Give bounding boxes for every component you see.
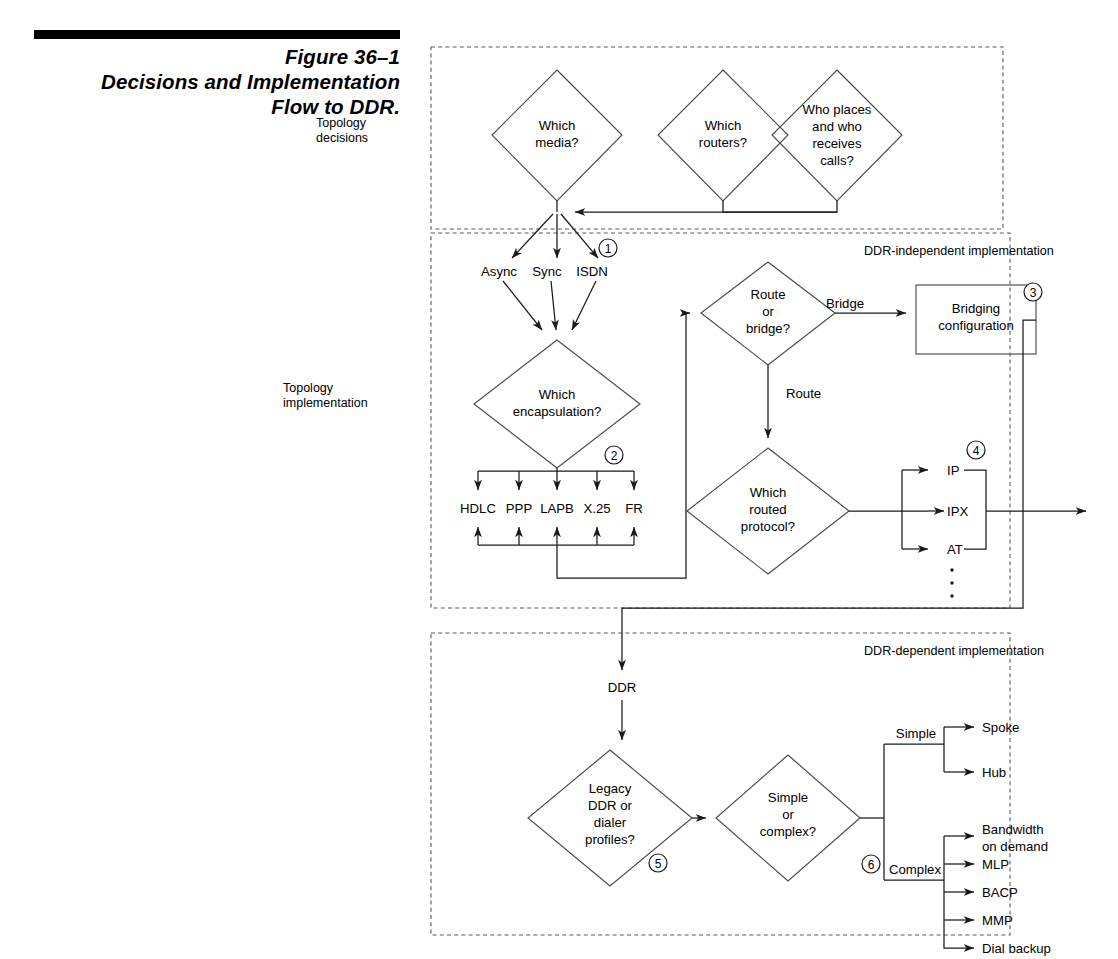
which-encapsulation-line2: encapsulation? — [513, 404, 602, 419]
arrow-async-to-encap — [503, 281, 542, 330]
complex-output-labels: Bandwidth on demand MLP BACP MMP Dial ba… — [982, 822, 1051, 956]
simple-output-labels: Spoke Hub — [982, 720, 1019, 780]
who-places-line2: and who — [812, 119, 862, 134]
output-label-bandwidth-line2: on demand — [982, 839, 1048, 854]
protocol-label-at: AT — [947, 542, 963, 557]
output-label-mlp: MLP — [982, 857, 1009, 872]
route-or-bridge-line1: Route — [750, 287, 785, 302]
decision-diamond-shapes — [474, 70, 1036, 886]
who-places-line1: Who places — [803, 102, 872, 117]
arrow-to-async — [512, 214, 553, 258]
who-places-line3: receives — [812, 136, 862, 151]
bridging-config-line1: Bridging — [952, 301, 1000, 316]
which-routed-protocol-line2: routed — [749, 502, 786, 517]
which-routed-protocol-line1: Which — [750, 485, 787, 500]
step-marker-5: 5 — [649, 854, 667, 872]
edge-label-bridge: Bridge — [826, 296, 864, 311]
output-label-mmp: MMP — [982, 913, 1013, 928]
legacy-ddr-line4: profiles? — [585, 832, 635, 847]
edge-label-ddr: DDR — [608, 680, 637, 695]
which-media-line1: Which — [539, 118, 576, 133]
step-marker-5-text: 5 — [655, 857, 662, 871]
label-ddr-independent: DDR-independent implementation — [864, 244, 1054, 258]
legacy-ddr-line1: Legacy — [589, 781, 632, 796]
output-label-dial-backup: Dial backup — [982, 941, 1051, 956]
media-label-isdn: ISDN — [576, 264, 608, 279]
encap-to-route-bridge-path — [557, 313, 686, 578]
edge-label-route: Route — [786, 386, 821, 401]
arrow-to-isdn — [561, 214, 598, 258]
step-marker-6: 6 — [862, 855, 880, 873]
simple-or-complex-line1: Simple — [768, 790, 808, 805]
encap-label-x25: X.25 — [583, 501, 610, 516]
which-routers-line1: Which — [705, 118, 742, 133]
routed-protocol-labels: IP IPX AT — [947, 463, 968, 557]
output-label-bacp: BACP — [982, 885, 1018, 900]
step-marker-3: 3 — [1024, 283, 1042, 301]
legacy-ddr-line3: dialer — [594, 815, 627, 830]
route-or-bridge-line2: or — [762, 304, 774, 319]
step-marker-2: 2 — [605, 446, 623, 464]
output-label-bandwidth-line1: Bandwidth — [982, 822, 1044, 837]
which-media-line2: media? — [535, 135, 578, 150]
step-marker-4: 4 — [967, 441, 985, 459]
encap-label-lapb: LAPB — [540, 501, 574, 516]
encap-label-ppp: PPP — [506, 501, 533, 516]
boundary-ddr-dependent — [431, 633, 1010, 935]
encap-label-hdlc: HDLC — [460, 501, 496, 516]
label-ddr-dependent: DDR-dependent implementation — [864, 644, 1044, 658]
who-places-line4: calls? — [820, 153, 854, 168]
media-label-sync: Sync — [532, 264, 562, 279]
simple-or-complex-line2: or — [782, 807, 794, 822]
encap-label-fr: FR — [625, 501, 643, 516]
media-type-labels: Async Sync ISDN — [481, 264, 608, 279]
step-marker-3-text: 3 — [1030, 286, 1037, 300]
protocol-ellipsis — [950, 568, 953, 597]
output-label-spoke: Spoke — [982, 720, 1019, 735]
protocol-label-ip: IP — [947, 463, 960, 478]
boundary-ddr-independent — [431, 233, 1010, 608]
media-label-async: Async — [481, 264, 517, 279]
step-marker-2-text: 2 — [611, 449, 618, 463]
which-routed-protocol-line3: protocol? — [741, 519, 795, 534]
connector-diamond-bottoms — [723, 201, 837, 212]
step-marker-4-text: 4 — [973, 444, 980, 458]
arrow-sync-to-encap — [551, 281, 556, 330]
output-label-hub: Hub — [982, 765, 1006, 780]
figure-root: Figure 36–1 Decisions and Implementation… — [0, 0, 1118, 959]
edge-label-complex: Complex — [889, 862, 941, 877]
bridging-config-line2: configuration — [938, 318, 1014, 333]
step-markers: 1 2 3 4 5 6 — [599, 239, 1042, 873]
simple-or-complex-line3: complex? — [760, 824, 816, 839]
which-routers-line2: routers? — [699, 135, 747, 150]
protocol-label-ipx: IPX — [947, 504, 968, 519]
arrow-isdn-to-encap — [572, 281, 596, 330]
diamond-labels: Which media? Which routers? Who places a… — [513, 102, 1014, 847]
arrow-to-dial-backup — [944, 920, 974, 948]
which-encapsulation-line1: Which — [539, 387, 576, 402]
section-boundaries — [431, 47, 1010, 935]
encap-fanout-bus — [478, 468, 634, 471]
step-marker-1-text: 1 — [605, 242, 612, 256]
step-marker-6-text: 6 — [868, 858, 875, 872]
encapsulation-labels: HDLC PPP LAPB X.25 FR — [460, 501, 643, 516]
legacy-ddr-line2: DDR or — [588, 798, 633, 813]
flowchart-canvas: DDR-independent implementation DDR-depen… — [0, 0, 1118, 959]
edge-label-simple: Simple — [896, 726, 936, 741]
step-marker-1: 1 — [599, 239, 617, 257]
route-or-bridge-line3: bridge? — [746, 321, 790, 336]
